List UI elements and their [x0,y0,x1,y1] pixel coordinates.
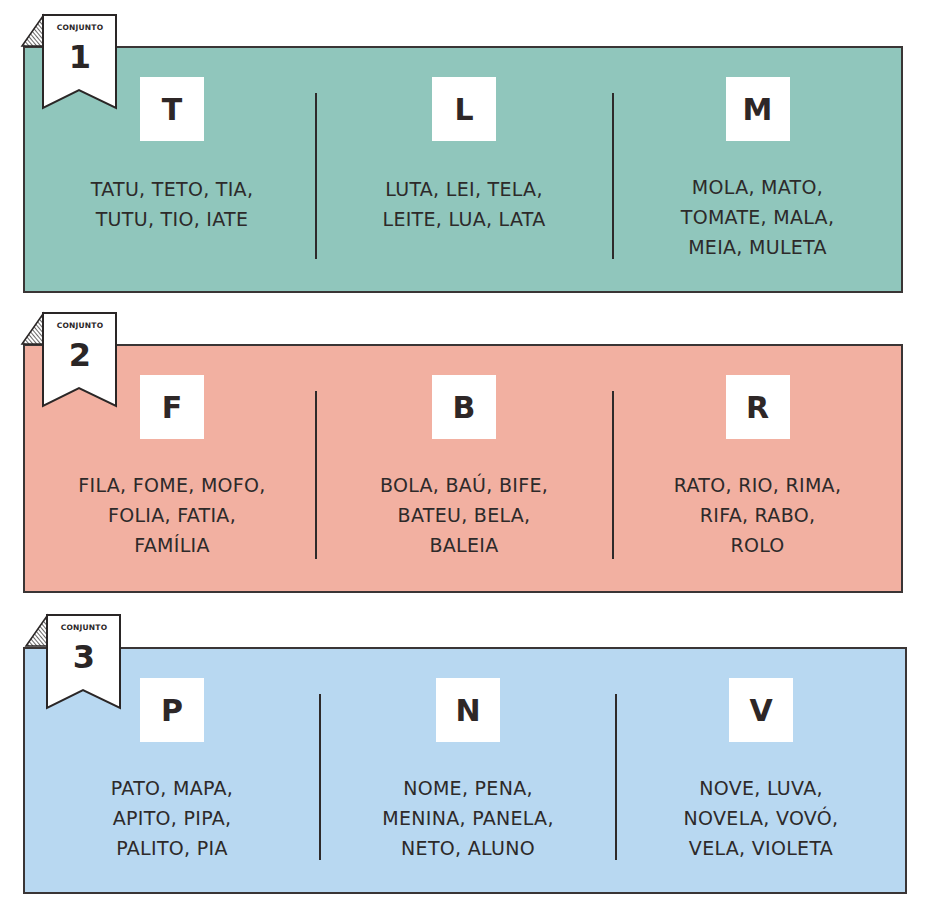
group-b: B BOLA, BAÚ, BIFE, BATEU, BELA, BALEIA [317,346,611,591]
group-m: M MOLA, MATO, TOMATE, MALA, MEIA, MULETA [614,48,901,291]
word-line: RATO, RIO, RIMA, [614,470,901,500]
set-number: 3 [47,638,121,676]
word-line: TATU, TETO, TIA, [25,174,319,204]
word-line: MOLA, MATO, [614,172,901,202]
word-line: NOME, PENA, [321,773,615,803]
word-line: NOVELA, VOVÓ, [617,803,905,833]
word-line: LUTA, LEI, TELA, [317,174,611,204]
word-line: RIFA, RABO, [614,500,901,530]
set-2-ribbon: CONJUNTO 2 [43,312,117,408]
letter-box: P [140,678,204,742]
word-line: BATEU, BELA, [317,500,611,530]
word-list: PATO, MAPA, APITO, PIPA, PALITO, PIA [25,773,319,863]
set-number: 1 [43,38,117,76]
set-label: CONJUNTO [47,623,121,632]
group-v: V NOVE, LUVA, NOVELA, VOVÓ, VELA, VIOLET… [617,649,905,892]
word-line: FILA, FOME, MOFO, [25,470,319,500]
word-line: FOLIA, FATIA, [25,500,319,530]
set-1-ribbon: CONJUNTO 1 [43,14,117,110]
group-n: N NOME, PENA, MENINA, PANELA, NETO, ALUN… [321,649,615,892]
word-line: LEITE, LUA, LATA [317,204,611,234]
word-line: TOMATE, MALA, [614,202,901,232]
set-label: CONJUNTO [43,321,117,330]
word-line: MEIA, MULETA [614,232,901,262]
word-line: PATO, MAPA, [25,773,319,803]
word-list: MOLA, MATO, TOMATE, MALA, MEIA, MULETA [614,172,901,262]
letter-box: V [729,678,793,742]
letter-box: R [726,375,790,439]
word-line: BOLA, BAÚ, BIFE, [317,470,611,500]
letter-box: N [436,678,500,742]
letter-box: L [432,77,496,141]
set-number: 2 [43,336,117,374]
word-line: FAMÍLIA [25,530,319,560]
word-line: PALITO, PIA [25,833,319,863]
word-line: TUTU, TIO, IATE [25,204,319,234]
word-line: BALEIA [317,530,611,560]
word-line: NETO, ALUNO [321,833,615,863]
word-line: ROLO [614,530,901,560]
set-3-panel: P PATO, MAPA, APITO, PIPA, PALITO, PIA N… [23,647,907,894]
word-line: APITO, PIPA, [25,803,319,833]
letter-box: F [140,375,204,439]
word-list: NOVE, LUVA, NOVELA, VOVÓ, VELA, VIOLETA [617,773,905,863]
set-2-panel: F FILA, FOME, MOFO, FOLIA, FATIA, FAMÍLI… [23,344,903,593]
word-line: VELA, VIOLETA [617,833,905,863]
word-list: RATO, RIO, RIMA, RIFA, RABO, ROLO [614,470,901,560]
word-list: LUTA, LEI, TELA, LEITE, LUA, LATA [317,174,611,234]
word-line: NOVE, LUVA, [617,773,905,803]
set-label: CONJUNTO [43,23,117,32]
letter-box: B [432,375,496,439]
set-3-ribbon: CONJUNTO 3 [47,614,121,710]
word-list: TATU, TETO, TIA, TUTU, TIO, IATE [25,174,319,234]
word-line: MENINA, PANELA, [321,803,615,833]
word-list: BOLA, BAÚ, BIFE, BATEU, BELA, BALEIA [317,470,611,560]
group-r: R RATO, RIO, RIMA, RIFA, RABO, ROLO [614,346,901,591]
word-list: NOME, PENA, MENINA, PANELA, NETO, ALUNO [321,773,615,863]
word-list: FILA, FOME, MOFO, FOLIA, FATIA, FAMÍLIA [25,470,319,560]
set-1-panel: T TATU, TETO, TIA, TUTU, TIO, IATE L LUT… [23,46,903,293]
letter-box: M [726,77,790,141]
group-l: L LUTA, LEI, TELA, LEITE, LUA, LATA [317,48,611,291]
letter-box: T [140,77,204,141]
